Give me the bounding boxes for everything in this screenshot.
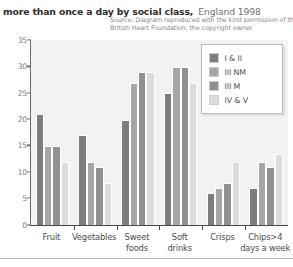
x-axis-label-line: drinks bbox=[148, 243, 212, 254]
legend-swatch-icon bbox=[209, 95, 219, 105]
bar bbox=[95, 167, 103, 225]
x-axis-label-line: Chips>4 bbox=[233, 232, 293, 243]
bar bbox=[36, 114, 44, 225]
legend-swatch-icon bbox=[209, 67, 219, 77]
bar bbox=[172, 67, 180, 225]
bar bbox=[146, 72, 154, 225]
x-axis-labels: FruitVegetablesSweetfoodsSoftdrinksCrisp… bbox=[30, 230, 288, 267]
bar bbox=[223, 183, 231, 225]
bar bbox=[121, 120, 129, 225]
bar-group bbox=[159, 40, 202, 225]
legend-item[interactable]: III NM bbox=[209, 65, 276, 79]
bar-group bbox=[117, 40, 160, 225]
x-axis-label-line: days a week bbox=[233, 243, 293, 254]
legend-swatch-icon bbox=[209, 81, 219, 91]
bar bbox=[164, 93, 172, 225]
bar bbox=[266, 167, 274, 225]
bar bbox=[138, 72, 146, 225]
bar bbox=[207, 193, 215, 225]
legend-label: IV & V bbox=[225, 96, 248, 105]
source-note-line-2: British Heart Foundation, the copyright … bbox=[110, 24, 290, 32]
bar bbox=[181, 67, 189, 225]
legend-label: III M bbox=[225, 82, 241, 91]
bar bbox=[232, 162, 240, 225]
legend-item[interactable]: I & II bbox=[209, 51, 276, 65]
legend-item[interactable]: IV & V bbox=[209, 93, 276, 107]
legend-label: I & II bbox=[225, 54, 242, 63]
bar bbox=[104, 183, 112, 225]
bar-group bbox=[74, 40, 117, 225]
bar bbox=[78, 135, 86, 225]
legend-item[interactable]: III M bbox=[209, 79, 276, 93]
chart-legend: I & IIIII NMIII MIV & V bbox=[201, 44, 283, 114]
source-note: Source: Diagram reproduced with the kind… bbox=[110, 16, 290, 33]
legend-swatch-icon bbox=[209, 53, 219, 63]
bottom-divider bbox=[0, 258, 293, 259]
bar-group bbox=[31, 40, 74, 225]
bar bbox=[44, 146, 52, 225]
bar bbox=[87, 162, 95, 225]
bar bbox=[189, 83, 197, 225]
bar bbox=[52, 146, 60, 225]
bar bbox=[61, 162, 69, 225]
bar bbox=[130, 83, 138, 225]
source-note-line-1: Source: Diagram reproduced with the kind… bbox=[110, 16, 290, 24]
bar bbox=[258, 162, 266, 225]
x-axis-label: Chips>4days a week bbox=[233, 232, 293, 253]
chart-title: more than once a day by social class, En… bbox=[3, 0, 291, 14]
bar bbox=[249, 188, 257, 225]
bar bbox=[215, 188, 223, 225]
legend-label: III NM bbox=[225, 68, 246, 77]
bar bbox=[275, 154, 283, 225]
